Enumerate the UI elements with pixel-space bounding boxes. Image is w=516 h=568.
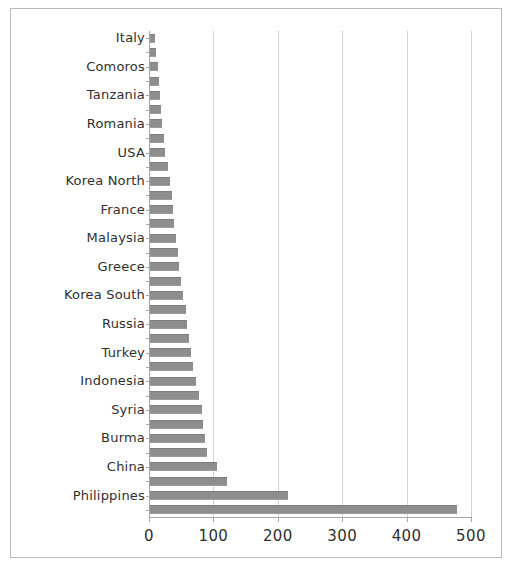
bar-slot [150, 105, 471, 114]
bar[interactable] [150, 34, 155, 43]
bar-slot [150, 477, 471, 486]
bar-slot [150, 491, 471, 500]
y-axis-label-china: China [107, 460, 145, 474]
bar[interactable] [150, 191, 172, 200]
y-tick [146, 67, 150, 68]
y-axis-label-korea-north: Korea North [65, 174, 145, 188]
y-axis-label-tanzania: Tanzania [87, 88, 145, 102]
y-tick [146, 138, 150, 139]
bar[interactable] [150, 477, 227, 486]
bar[interactable] [150, 105, 161, 114]
bar-slot [150, 291, 471, 300]
bar[interactable] [150, 505, 457, 514]
bar[interactable] [150, 320, 187, 329]
y-tick [146, 496, 150, 497]
bar-slot [150, 348, 471, 357]
y-tick [146, 338, 150, 339]
bar[interactable] [150, 248, 178, 257]
chart-inner: ItalyComorosTanzaniaRomaniaUSAKorea Nort… [11, 9, 501, 557]
y-tick [146, 224, 150, 225]
bar-slot [150, 91, 471, 100]
bar-slot [150, 48, 471, 57]
bar-slot [150, 162, 471, 171]
bar[interactable] [150, 434, 205, 443]
bar[interactable] [150, 391, 199, 400]
y-tick [146, 195, 150, 196]
bar[interactable] [150, 420, 203, 429]
y-tick [146, 367, 150, 368]
bar[interactable] [150, 148, 165, 157]
bar-slot [150, 119, 471, 128]
bar-series [150, 31, 471, 517]
bar[interactable] [150, 362, 193, 371]
bar[interactable] [150, 305, 186, 314]
y-tick [146, 510, 150, 511]
bar-slot [150, 362, 471, 371]
bar[interactable] [150, 462, 217, 471]
bar[interactable] [150, 134, 164, 143]
y-tick [146, 396, 150, 397]
y-tick [146, 52, 150, 53]
y-axis-label-france: France [101, 203, 145, 217]
bar[interactable] [150, 277, 181, 286]
bar-slot [150, 219, 471, 228]
x-tick-300 [342, 517, 343, 522]
bar-slot [150, 305, 471, 314]
y-tick [146, 81, 150, 82]
x-axis-label-200: 200 [263, 527, 293, 545]
bar[interactable] [150, 291, 183, 300]
bar-slot [150, 205, 471, 214]
bar[interactable] [150, 262, 179, 271]
bar[interactable] [150, 377, 196, 386]
y-axis-label-indonesia: Indonesia [80, 374, 145, 388]
bar[interactable] [150, 405, 202, 414]
bar-slot [150, 377, 471, 386]
bar[interactable] [150, 205, 173, 214]
bar-slot [150, 334, 471, 343]
bar[interactable] [150, 162, 168, 171]
y-axis-label-italy: Italy [116, 31, 145, 45]
y-axis-label-burma: Burma [101, 431, 145, 445]
y-tick [146, 267, 150, 268]
bar-slot [150, 448, 471, 457]
y-axis-label-romania: Romania [87, 117, 145, 131]
y-tick [146, 281, 150, 282]
y-axis-label-syria: Syria [111, 403, 145, 417]
bar[interactable] [150, 119, 162, 128]
bar-slot [150, 234, 471, 243]
y-tick [146, 95, 150, 96]
y-tick [146, 253, 150, 254]
bar-slot [150, 505, 471, 514]
y-tick [146, 410, 150, 411]
bar[interactable] [150, 91, 160, 100]
bar[interactable] [150, 491, 288, 500]
x-axis-label-0: 0 [144, 527, 154, 545]
bar-slot [150, 462, 471, 471]
y-axis-label-korea-south: Korea South [64, 288, 145, 302]
y-tick [146, 424, 150, 425]
y-tick [146, 438, 150, 439]
bar-slot [150, 434, 471, 443]
bar-slot [150, 248, 471, 257]
bar[interactable] [150, 62, 158, 71]
x-axis-label-300: 300 [327, 527, 357, 545]
bar[interactable] [150, 219, 174, 228]
bar[interactable] [150, 234, 176, 243]
y-tick [146, 310, 150, 311]
bar-slot [150, 62, 471, 71]
bar[interactable] [150, 348, 191, 357]
y-tick [146, 110, 150, 111]
x-tick-400 [407, 517, 408, 522]
bar[interactable] [150, 177, 170, 186]
x-tick-500 [471, 517, 472, 522]
bar[interactable] [150, 48, 156, 57]
bar-slot [150, 320, 471, 329]
bar[interactable] [150, 334, 189, 343]
y-tick [146, 381, 150, 382]
bar[interactable] [150, 77, 159, 86]
x-axis-label-100: 100 [198, 527, 228, 545]
bar[interactable] [150, 448, 207, 457]
y-tick [146, 153, 150, 154]
bar-slot [150, 262, 471, 271]
bar-slot [150, 391, 471, 400]
